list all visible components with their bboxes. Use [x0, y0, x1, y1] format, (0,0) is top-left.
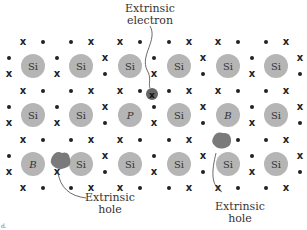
- hole-right-label: Extrinsic hole: [210, 201, 270, 225]
- corner-mark: d.: [1, 222, 7, 229]
- hole-left-label-line2: hole: [80, 204, 140, 216]
- hole-left-label: Extrinsic hole: [80, 192, 140, 216]
- electron-pointer-line: [145, 26, 152, 88]
- electron-label-line2: electron: [120, 15, 180, 27]
- annotation-arrows: x: [0, 0, 307, 230]
- extrinsic-hole-left: [51, 152, 71, 169]
- hole-right-label-line2: hole: [210, 213, 270, 225]
- hole-right-pointer-line: [213, 153, 222, 192]
- lattice-diagram: SiSiSiSiSiSiSiSiPSiBSiBSiSiSiSiSi xxxxxx…: [0, 0, 307, 230]
- extrinsic-hole-right: [212, 133, 231, 149]
- electron-label: Extrinsic electron: [120, 3, 180, 27]
- svg-text:x: x: [149, 90, 155, 100]
